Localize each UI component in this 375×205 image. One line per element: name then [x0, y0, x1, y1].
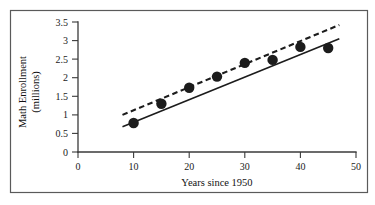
x-tick-label-20: 20: [184, 161, 194, 172]
y-axis-title-line1: Math Enrollment: [17, 56, 28, 128]
data-point: [184, 83, 194, 93]
x-tick-label-10: 10: [129, 161, 139, 172]
y-tick-label-1-5: 1.5: [56, 91, 69, 102]
y-tick-label-3-5: 3.5: [56, 17, 69, 28]
chart-figure: Math Enrollment (millions) 0 0.5 1 1.5 2: [0, 0, 375, 205]
scatter-plot-svg: Math Enrollment (millions) 0 0.5 1 1.5 2: [0, 0, 375, 205]
y-tick-label-1: 1: [63, 109, 68, 120]
y-tick-label-0-5: 0.5: [56, 128, 69, 139]
y-tick-label-2: 2: [63, 72, 68, 83]
data-point: [212, 71, 222, 81]
data-point: [240, 58, 250, 68]
y-axis-title-line2: (millions): [30, 71, 42, 113]
x-tick-label-50: 50: [351, 161, 361, 172]
y-tick-label-2-5: 2.5: [56, 54, 69, 65]
data-point: [323, 43, 333, 53]
data-point: [267, 55, 277, 65]
data-point: [156, 99, 166, 109]
x-tick-label-40: 40: [295, 161, 305, 172]
x-tick-label-30: 30: [240, 161, 250, 172]
data-point: [295, 42, 305, 52]
y-tick-label-3: 3: [63, 35, 68, 46]
x-tick-label-0: 0: [76, 161, 81, 172]
x-axis-title: Years since 1950: [181, 177, 252, 188]
y-tick-label-0: 0: [63, 147, 68, 158]
data-point: [128, 118, 138, 128]
